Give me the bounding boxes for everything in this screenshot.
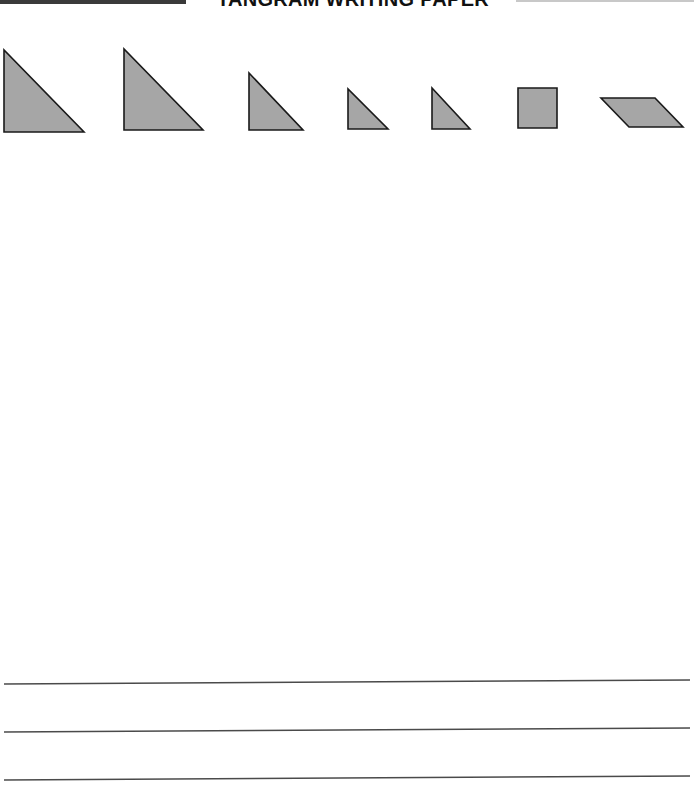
- writing-lines: [0, 660, 694, 800]
- medium-triangle: [249, 73, 303, 130]
- parallelogram: [601, 98, 683, 127]
- tangram-pieces: [0, 0, 694, 150]
- writing-line-1: [4, 680, 690, 684]
- large-triangle-1: [4, 50, 84, 132]
- small-triangle-1: [348, 89, 388, 129]
- small-triangle-2: [432, 88, 470, 129]
- tangram-workspace: [0, 145, 694, 660]
- square: [518, 88, 557, 128]
- large-triangle-2: [124, 49, 203, 130]
- writing-line-3: [4, 776, 690, 780]
- writing-line-2: [4, 728, 690, 732]
